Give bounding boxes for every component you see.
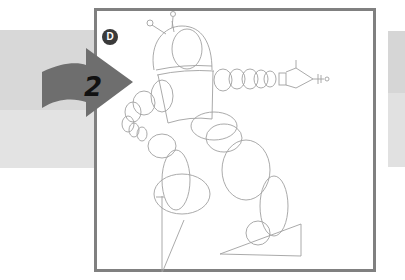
backdrop-band-right — [388, 31, 405, 93]
robot-sketch — [94, 8, 376, 272]
backdrop-band-right-lower — [388, 93, 405, 167]
step-number: 2 — [84, 74, 102, 100]
panel-badge: D — [102, 29, 118, 45]
